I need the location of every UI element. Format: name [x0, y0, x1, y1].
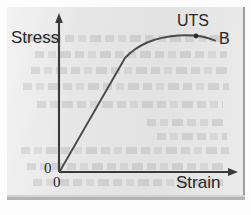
uts-marker-dot — [194, 34, 199, 39]
x-axis-label: Strain — [176, 174, 220, 191]
stress-strain-curve — [60, 35, 215, 171]
point-b-label: B — [219, 31, 230, 47]
scanned-figure-page: Stress Strain UTS B 0 0 — [0, 0, 251, 215]
origin-label-y: 0 — [44, 161, 52, 176]
uts-label: UTS — [177, 13, 209, 29]
y-axis-label: Stress — [11, 29, 59, 46]
x-axis-arrowhead — [228, 168, 238, 176]
y-axis-arrowhead — [55, 13, 63, 23]
origin-label-x: 0 — [53, 175, 61, 190]
